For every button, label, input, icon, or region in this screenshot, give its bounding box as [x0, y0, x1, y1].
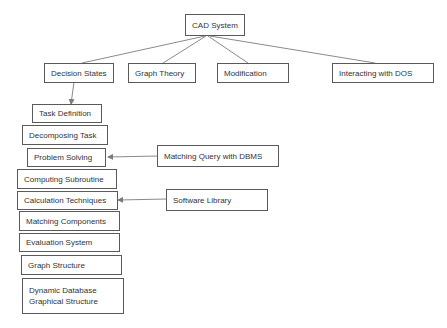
edge-matching-query-problem: [108, 156, 159, 157]
cad-system-node: CAD System: [185, 14, 245, 36]
edge-decision-task-def: [71, 82, 74, 104]
interacting-dos-node: Interacting with DOS: [332, 63, 434, 83]
modification-node: Modification: [217, 63, 289, 83]
dynamic-database-node: Dynamic Database Graphical Structure: [22, 278, 124, 314]
task-definition-node: Task Definition: [32, 104, 102, 123]
calculation-techniques-node: Calculation Techniques: [17, 191, 118, 210]
computing-subroutine-node: Computing Subroutine: [17, 169, 117, 189]
matching-components-node: Matching Components: [19, 211, 120, 231]
graph-structure-node: Graph Structure: [21, 255, 122, 275]
matching-query-dbms-node: Matching Query with DBMS: [157, 145, 279, 167]
edge-software-lib-calc: [118, 199, 167, 200]
decision-states-node: Decision States: [44, 63, 114, 83]
edge-root-interacting-dos: [210, 36, 375, 63]
graph-theory-node: Graph Theory: [128, 63, 196, 83]
edge-root-decision-states: [82, 36, 205, 63]
dynamic-database-line2: Graphical Structure: [29, 296, 98, 307]
dynamic-database-line1: Dynamic Database: [29, 285, 97, 296]
decomposing-task-node: Decomposing Task: [22, 125, 108, 145]
edge-root-modification: [208, 36, 248, 63]
problem-solving-node: Problem Solving: [27, 148, 106, 167]
software-library-node: Software Library: [166, 189, 268, 211]
evaluation-system-node: Evaluation System: [19, 233, 120, 252]
